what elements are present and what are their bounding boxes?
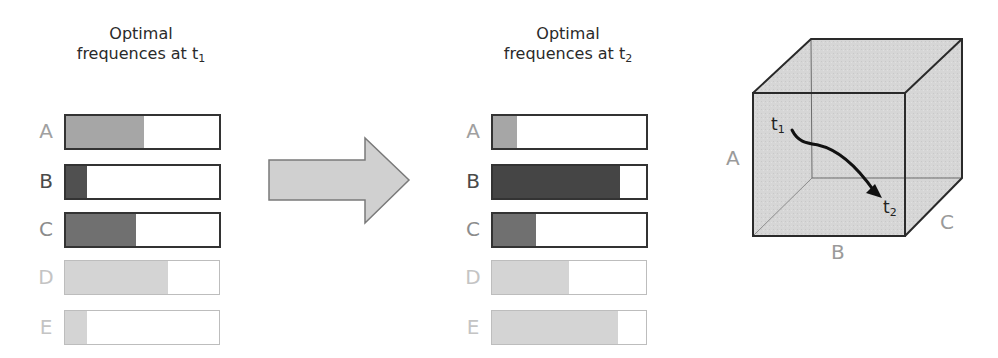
cube-axis-label-a: A	[726, 146, 740, 170]
cube-icon	[753, 39, 962, 236]
right-arrow-icon	[269, 138, 409, 223]
cube-axis-label-c: C	[940, 210, 954, 234]
cube-axis-label-b: B	[831, 240, 845, 264]
diagram-canvas	[0, 0, 998, 358]
cube-start-label: t1	[771, 114, 785, 136]
cube-end-label: t2	[883, 197, 897, 219]
